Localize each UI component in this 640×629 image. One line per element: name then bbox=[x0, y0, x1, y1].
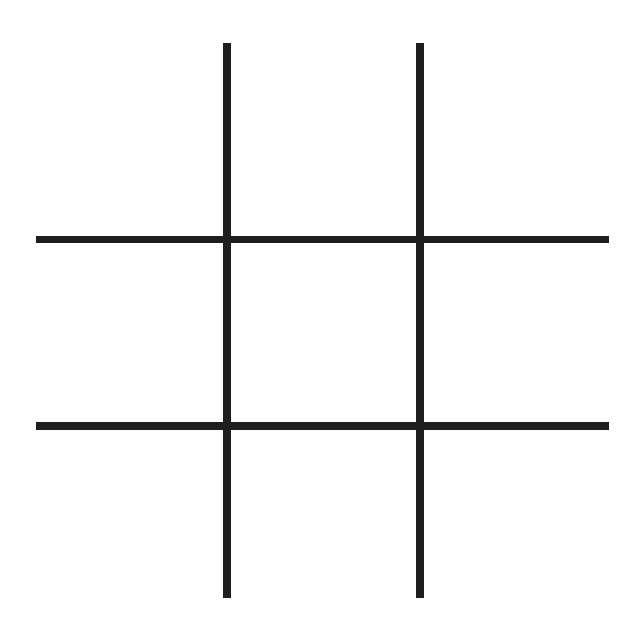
horizontal-grid-line-2 bbox=[36, 422, 609, 430]
cell-2-2[interactable] bbox=[424, 430, 609, 598]
cell-0-2[interactable] bbox=[424, 43, 609, 236]
tic-tac-toe-board bbox=[0, 0, 640, 629]
cell-1-0[interactable] bbox=[36, 243, 223, 422]
cell-1-1[interactable] bbox=[231, 243, 416, 422]
cell-2-0[interactable] bbox=[36, 430, 223, 598]
vertical-grid-line-1 bbox=[223, 43, 231, 598]
cell-0-1[interactable] bbox=[231, 43, 416, 236]
vertical-grid-line-2 bbox=[416, 43, 424, 598]
cell-1-2[interactable] bbox=[424, 243, 609, 422]
cell-2-1[interactable] bbox=[231, 430, 416, 598]
horizontal-grid-line-1 bbox=[36, 236, 609, 243]
cell-0-0[interactable] bbox=[36, 43, 223, 236]
